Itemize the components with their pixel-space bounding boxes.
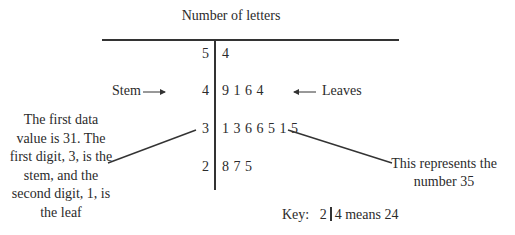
key-prefix: Key: [282,207,309,222]
key-legend: Key: 24 means 24 [282,207,398,223]
right-pointer-line [288,130,392,163]
key-stem: 2 [320,207,327,222]
key-divider [330,207,332,221]
left-pointer-line [108,130,196,163]
first-value-annotation: The first data value is 31. The first di… [8,111,114,223]
key-leaf: 4 [335,207,342,222]
value-35-annotation: This represents the number 35 [385,155,503,191]
key-text: means 24 [345,207,398,222]
